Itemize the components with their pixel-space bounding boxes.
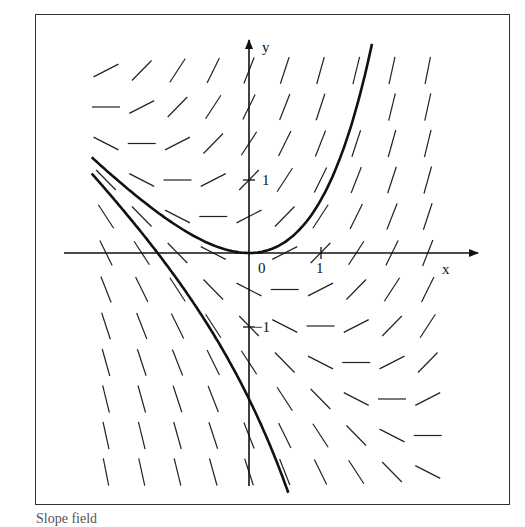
- slope-segment: [313, 424, 328, 447]
- slope-segment: [425, 57, 430, 84]
- slope-segment: [138, 386, 146, 413]
- y-tick-label-one: 1: [262, 172, 270, 188]
- slope-segment: [165, 137, 190, 150]
- slope-segment: [314, 167, 326, 192]
- slope-segment: [425, 93, 431, 120]
- slope-segment: [94, 137, 119, 150]
- slope-segment: [350, 204, 362, 229]
- slope-segment: [102, 349, 110, 376]
- slope-segment: [103, 422, 109, 449]
- slope-segment: [137, 313, 147, 339]
- slope-segment: [388, 130, 396, 157]
- slope-segment: [314, 459, 326, 484]
- slope-segment: [388, 167, 397, 194]
- slope-segment: [174, 458, 181, 485]
- slope-segment: [380, 429, 405, 442]
- slope-segment: [275, 352, 295, 372]
- slope-segment: [170, 59, 185, 82]
- slope-segment: [138, 422, 145, 449]
- slope-segment: [102, 313, 111, 340]
- slope-segment: [418, 352, 438, 372]
- slope-segment: [346, 279, 366, 299]
- figure-caption: Slope field: [36, 511, 97, 527]
- slope-segment: [137, 349, 146, 376]
- slope-segment: [279, 131, 291, 156]
- slope-segment: [280, 94, 290, 120]
- slope-segment: [277, 168, 292, 191]
- slope-segment: [420, 314, 435, 337]
- x-tick-label-one: 1: [316, 260, 324, 276]
- slope-segment: [308, 283, 333, 296]
- slope-segment: [387, 203, 397, 229]
- slope-segment: [384, 278, 399, 301]
- slope-segment: [311, 389, 331, 409]
- slope-segment: [207, 350, 219, 375]
- slope-segment: [382, 462, 402, 482]
- slope-segment: [352, 130, 361, 157]
- slope-segment: [171, 313, 183, 338]
- slope-segment: [209, 422, 218, 449]
- x-axis-label: x: [442, 261, 450, 277]
- slope-segment: [208, 386, 218, 412]
- slope-segment: [275, 206, 295, 226]
- slope-segment: [423, 203, 432, 230]
- slope-segment: [101, 276, 111, 302]
- slope-segment: [389, 57, 395, 84]
- slope-segment: [389, 93, 396, 120]
- slope-segment: [315, 130, 325, 156]
- slope-segments: [92, 57, 442, 486]
- slope-segment: [129, 174, 154, 187]
- slope-segment: [422, 277, 434, 302]
- slope-segment: [203, 279, 223, 299]
- slope-segment: [139, 458, 145, 485]
- slope-segment: [351, 167, 361, 193]
- slope-segment: [203, 133, 223, 153]
- slope-segment: [173, 386, 182, 413]
- slope-segment: [206, 95, 221, 118]
- slope-segment: [415, 466, 440, 479]
- slope-segment: [174, 422, 182, 449]
- slope-segment: [316, 94, 325, 121]
- slope-segment: [344, 320, 369, 333]
- slope-segment: [94, 64, 119, 77]
- slope-segment: [353, 57, 360, 84]
- slope-segment: [136, 277, 148, 302]
- slope-segment: [424, 130, 431, 157]
- slope-segment: [382, 316, 402, 336]
- slope-segment: [98, 205, 113, 228]
- origin-label: 0: [258, 260, 266, 276]
- slope-segment: [207, 58, 219, 83]
- slope-segment: [129, 101, 154, 114]
- slope-segment: [344, 393, 369, 406]
- slope-segment: [380, 356, 405, 369]
- slope-segment: [209, 459, 217, 486]
- slope-segment: [103, 385, 110, 412]
- slope-segment: [132, 60, 152, 80]
- slope-segment: [168, 97, 188, 117]
- slope-segment: [279, 423, 291, 448]
- slope-segment: [201, 174, 226, 187]
- slope-segment: [346, 425, 366, 445]
- slope-segment: [317, 57, 325, 84]
- slope-segment: [103, 458, 108, 485]
- slope-segment: [424, 167, 432, 194]
- y-tick-label-minus-one: −1: [254, 319, 270, 335]
- slope-segment: [172, 349, 182, 375]
- slope-segment: [349, 460, 364, 483]
- y-axis-label: y: [262, 39, 270, 55]
- slope-segment: [272, 320, 297, 333]
- slope-segment: [308, 356, 333, 369]
- slope-segment: [277, 387, 292, 410]
- slope-segment: [415, 393, 440, 406]
- slope-segment: [280, 57, 289, 84]
